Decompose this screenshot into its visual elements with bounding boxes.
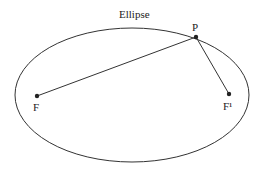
diagram-title: Ellipse	[119, 9, 150, 20]
segment-f-p	[37, 37, 196, 96]
label-f1: F¹	[223, 101, 232, 112]
segment-p-f1	[196, 37, 229, 94]
ellipse-curve	[15, 28, 249, 162]
focus-f-dot	[35, 94, 39, 98]
point-p-dot	[194, 35, 198, 39]
focus-f1-dot	[227, 92, 231, 96]
ellipse-diagram	[0, 0, 264, 169]
label-p: P	[192, 22, 198, 33]
label-f: F	[33, 102, 39, 113]
